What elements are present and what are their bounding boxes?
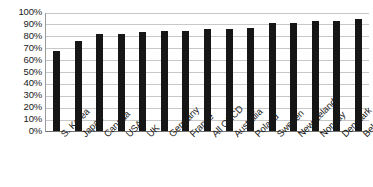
y-tick-label: 90% xyxy=(24,19,42,29)
bar[interactable] xyxy=(139,32,146,131)
bar-slot xyxy=(154,13,176,131)
y-tick-label: 0% xyxy=(29,126,42,136)
bar[interactable] xyxy=(53,51,60,131)
y-tick-label: 20% xyxy=(24,102,42,112)
y-tick-label: 30% xyxy=(24,90,42,100)
y-tick-label: 100% xyxy=(19,7,43,17)
bar[interactable] xyxy=(161,31,168,131)
y-tick-label: 80% xyxy=(24,31,42,41)
x-axis: S. KoreaJapanCanadaUSAUKGermanyFranceAll… xyxy=(45,132,369,187)
y-axis: 100%90%80%70%60%50%40%30%20%10%0% xyxy=(0,7,45,133)
y-tick-label: 40% xyxy=(24,78,42,88)
bar-chart: 100%90%80%70%60%50%40%30%20%10%0% S. Kor… xyxy=(0,0,373,187)
y-tick-label: 50% xyxy=(24,67,42,77)
bar-slot xyxy=(89,13,111,131)
y-tick-label: 70% xyxy=(24,43,42,53)
y-tick-label: 60% xyxy=(24,55,42,65)
bar-slot xyxy=(46,13,68,131)
bar-slot xyxy=(132,13,154,131)
y-tick-label: 10% xyxy=(24,114,42,124)
